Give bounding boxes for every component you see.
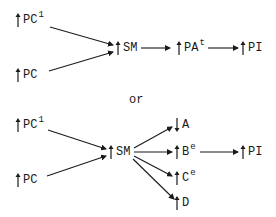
node-label: PC <box>23 173 37 187</box>
diagram-canvas: PC1 PC SM PAt PI or PC1 <box>0 0 276 217</box>
node-label: D <box>182 196 189 210</box>
down-arrow-icon <box>174 118 180 132</box>
node-bottom-pc: PC <box>15 173 37 187</box>
node-bottom-ce: Ce <box>174 171 196 185</box>
node-label: SM <box>116 145 130 159</box>
edge-layer <box>0 0 276 217</box>
node-label: PC <box>23 68 37 82</box>
separator-or: or <box>129 93 143 107</box>
up-arrow-icon <box>240 145 246 159</box>
edge-top-pc1-sm <box>50 27 113 45</box>
node-bottom-d: D <box>174 196 189 210</box>
node-superscript: t <box>199 36 204 50</box>
edge-bottom-sm-d <box>133 159 174 199</box>
up-arrow-icon <box>15 13 21 27</box>
node-label: C <box>182 171 189 185</box>
up-arrow-icon <box>108 145 114 159</box>
up-arrow-icon <box>115 41 121 55</box>
node-superscript: e <box>190 166 195 180</box>
edge-bottom-pc1-sm <box>48 130 106 149</box>
up-arrow-icon <box>15 68 21 82</box>
node-top-sm: SM <box>115 41 137 55</box>
edge-top-pc-sm <box>49 52 113 71</box>
up-arrow-icon <box>174 196 180 210</box>
node-bottom-pc1: PC1 <box>15 118 44 132</box>
node-bottom-sm: SM <box>108 145 130 159</box>
node-superscript: 1 <box>38 8 43 22</box>
node-top-pat: PAt <box>176 41 205 55</box>
up-arrow-icon <box>174 171 180 185</box>
node-label: PI <box>248 41 262 55</box>
up-arrow-icon <box>176 41 182 55</box>
edge-bottom-sm-a <box>134 127 172 148</box>
up-arrow-icon <box>174 145 180 159</box>
up-arrow-icon <box>240 41 246 55</box>
node-label: PI <box>248 145 262 159</box>
node-label: PA <box>184 41 198 55</box>
node-bottom-pi: PI <box>240 145 262 159</box>
node-superscript: 1 <box>38 113 43 127</box>
node-top-pi: PI <box>240 41 262 55</box>
node-label: SM <box>123 41 137 55</box>
node-top-pc1: PC1 <box>15 13 44 27</box>
node-superscript: e <box>190 140 195 154</box>
edge-bottom-pc-sm <box>47 156 106 176</box>
up-arrow-icon <box>15 173 21 187</box>
node-top-pc: PC <box>15 68 37 82</box>
node-label: B <box>182 145 189 159</box>
node-label: PC <box>23 118 37 132</box>
node-label: A <box>182 118 189 132</box>
node-bottom-be: Be <box>174 145 196 159</box>
up-arrow-icon <box>15 118 21 132</box>
node-label: PC <box>23 13 37 27</box>
node-bottom-a: A <box>174 118 189 132</box>
